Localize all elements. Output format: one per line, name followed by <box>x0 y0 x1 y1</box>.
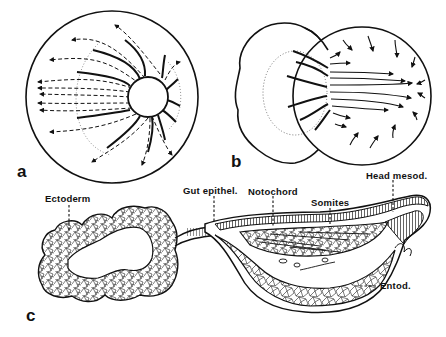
label-head-mesod: Head mesod. <box>366 170 427 181</box>
panel-label-a: a <box>17 162 26 182</box>
label-entod: Entod. <box>380 280 411 291</box>
panel-c-drawing <box>38 180 430 313</box>
label-notochord: Notochord <box>248 186 298 197</box>
panel-label-b: b <box>231 152 241 172</box>
label-ectoderm: Ectoderm <box>45 193 90 204</box>
panel-label-c: c <box>26 306 35 326</box>
panel-b-drawing <box>235 23 431 165</box>
panel-a-drawing <box>26 11 198 183</box>
label-gut-epithel: Gut epithel. <box>183 185 238 196</box>
label-somites: Somites <box>311 197 349 208</box>
figure-canvas: a b c Ectoderm Gut epithel. Notochord So… <box>0 0 446 337</box>
